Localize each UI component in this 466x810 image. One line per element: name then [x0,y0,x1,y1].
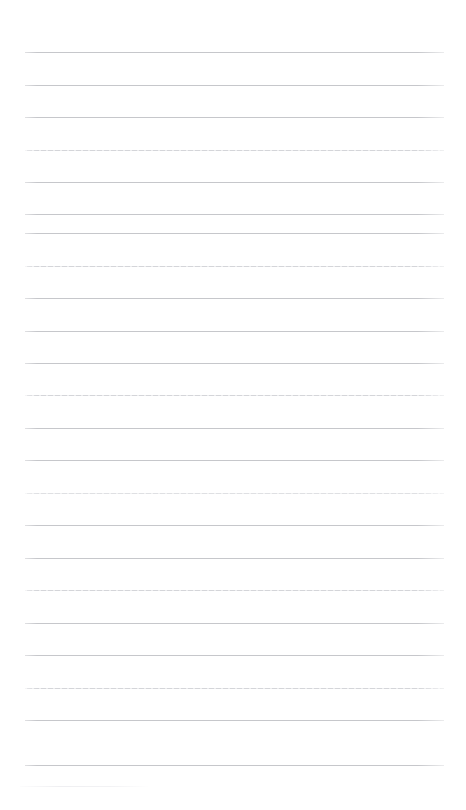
notebook-page [0,0,466,810]
bottom-edge-scan-artifact [20,786,150,787]
rule-line-19 [25,623,444,624]
rule-line-23 [25,765,444,766]
rule-line-12 [25,395,444,396]
rule-line-8 [25,266,444,267]
rule-line-16 [25,525,444,526]
rule-line-4 [25,150,444,151]
rule-line-14 [25,460,444,461]
rule-line-5 [25,182,444,183]
rule-line-15 [25,493,444,494]
rule-line-17 [25,558,444,559]
rule-line-22 [25,720,444,721]
rule-line-18 [25,590,444,591]
rule-line-3 [25,117,444,118]
rule-line-11 [25,363,444,364]
ruled-writing-area[interactable] [0,0,466,810]
rule-line-1 [25,52,444,53]
rule-line-7 [25,233,444,234]
rule-line-20 [25,655,444,656]
rule-line-9 [25,298,444,299]
rule-line-10 [25,331,444,332]
rule-line-13 [25,428,444,429]
rule-line-21 [25,688,444,689]
rule-line-6 [25,214,444,215]
rule-line-2 [25,85,444,86]
